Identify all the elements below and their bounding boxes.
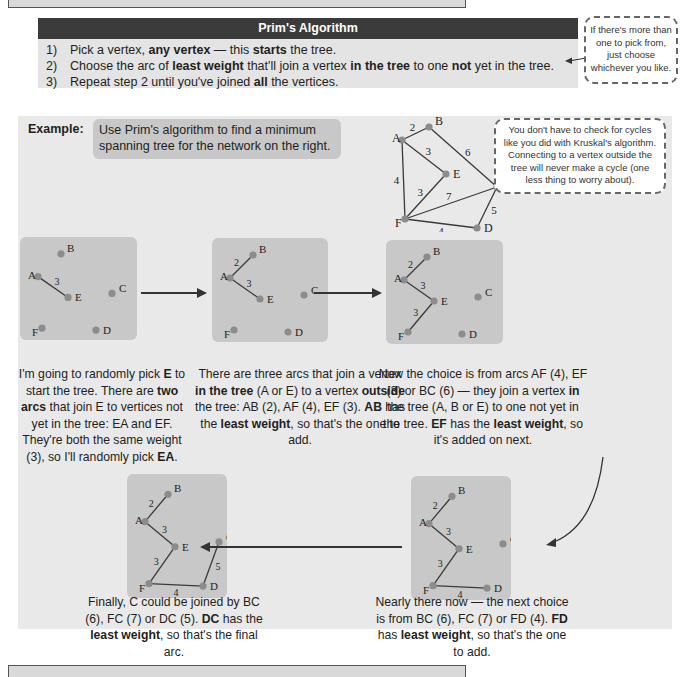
svg-text:2: 2 — [234, 257, 239, 268]
svg-text:3: 3 — [418, 186, 424, 198]
svg-text:B: B — [174, 482, 181, 494]
svg-text:C: C — [119, 282, 126, 294]
svg-text:C: C — [311, 284, 318, 296]
svg-text:7: 7 — [446, 190, 452, 202]
step-4-caption: Nearly there now — the next choice is fr… — [372, 594, 572, 660]
next-section-edge — [8, 665, 466, 677]
svg-text:D: D — [295, 326, 303, 338]
algorithm-title: Prim's Algorithm — [38, 18, 578, 39]
svg-text:E: E — [466, 543, 473, 555]
svg-text:3: 3 — [446, 526, 451, 537]
svg-text:F: F — [139, 582, 145, 594]
step-5-graph: 23345ABCDEF — [127, 474, 227, 598]
svg-text:6: 6 — [465, 146, 471, 158]
algorithm-steps: 1)Pick a vertex, any vertex — this start… — [38, 39, 578, 90]
svg-text:B: B — [458, 484, 465, 496]
step-2-graph: 23ABCDEF — [212, 238, 328, 342]
prims-algorithm-box: Prim's Algorithm 1)Pick a vertex, any ve… — [38, 18, 578, 88]
example-task: Use Prim's algorithm to find a minimum s… — [93, 119, 341, 159]
svg-text:E: E — [267, 293, 274, 305]
step-3-graph: 233ABCDEF — [386, 240, 503, 344]
svg-text:E: E — [75, 291, 82, 303]
step-1-graph: 3ABCDEF — [20, 237, 137, 340]
svg-text:2: 2 — [433, 500, 438, 511]
svg-text:B: B — [435, 117, 443, 128]
svg-text:5: 5 — [216, 561, 221, 572]
svg-text:B: B — [67, 242, 74, 254]
svg-text:F: F — [32, 326, 38, 338]
svg-text:4: 4 — [438, 225, 444, 233]
svg-text:D: D — [494, 582, 502, 594]
svg-text:D: D — [103, 324, 111, 336]
step-5-caption: Finally, C could be joined by BC (6), FC… — [84, 594, 264, 660]
svg-text:A: A — [419, 516, 427, 528]
svg-text:4: 4 — [394, 174, 400, 186]
svg-text:E: E — [182, 541, 189, 553]
svg-text:3: 3 — [54, 276, 59, 287]
svg-text:3: 3 — [154, 556, 159, 567]
svg-text:D: D — [469, 328, 477, 340]
curved-arrow-step3-to-step4 — [540, 455, 610, 555]
step-2-caption: There are three arcs that join a vertex … — [195, 366, 405, 449]
svg-text:B: B — [259, 243, 266, 255]
arrowhead — [197, 288, 207, 298]
svg-text:F: F — [395, 216, 402, 230]
svg-text:A: A — [394, 272, 402, 284]
arrow-step2-to-step3 — [314, 292, 374, 294]
svg-text:A: A — [28, 269, 36, 281]
arrowhead — [200, 542, 210, 552]
svg-text:A: A — [220, 270, 228, 282]
callout-choice-note: If there's more than one to pick from, j… — [584, 16, 678, 84]
svg-text:3: 3 — [413, 307, 418, 318]
arrow-step4-to-step5 — [210, 546, 402, 548]
svg-text:E: E — [441, 295, 448, 307]
svg-text:E: E — [453, 167, 460, 181]
example-label: Example: — [28, 122, 84, 136]
svg-text:C: C — [226, 531, 227, 543]
svg-text:2: 2 — [410, 121, 416, 133]
step-3-caption: Now the choice is from arcs AF (4), EF (… — [378, 366, 588, 449]
algorithm-step-1: 1)Pick a vertex, any vertex — this start… — [46, 42, 578, 58]
callout-cycles-note: You don't have to check for cycles like … — [494, 118, 666, 194]
algorithm-step-2: 2)Choose the arc of least weight that'll… — [46, 58, 578, 74]
svg-text:A: A — [392, 131, 401, 145]
svg-text:3: 3 — [162, 524, 167, 535]
step-1-caption: I'm going to randomly pick E to start th… — [18, 366, 186, 465]
svg-text:D: D — [210, 580, 218, 592]
svg-text:2: 2 — [408, 259, 413, 270]
svg-text:D: D — [484, 221, 493, 232]
svg-text:3: 3 — [421, 280, 426, 291]
svg-text:3: 3 — [426, 145, 432, 157]
svg-text:C: C — [485, 286, 492, 298]
algorithm-step-3: 3)Repeat step 2 until you've joined all … — [46, 74, 578, 90]
arrowhead — [372, 288, 382, 298]
step-4-graph: 2334ABCDEF — [411, 476, 511, 600]
svg-text:3: 3 — [247, 278, 252, 289]
svg-text:5: 5 — [491, 204, 497, 216]
svg-text:F: F — [224, 328, 230, 340]
network-graph: 26343754ABCDEF — [382, 117, 507, 232]
svg-text:B: B — [433, 245, 440, 257]
svg-text:F: F — [398, 330, 404, 342]
arrow-step1-to-step2 — [141, 292, 199, 294]
svg-text:A: A — [135, 514, 143, 526]
svg-text:C: C — [510, 533, 511, 545]
svg-text:3: 3 — [438, 558, 443, 569]
previous-section-edge — [8, 0, 466, 8]
svg-text:2: 2 — [149, 498, 154, 509]
